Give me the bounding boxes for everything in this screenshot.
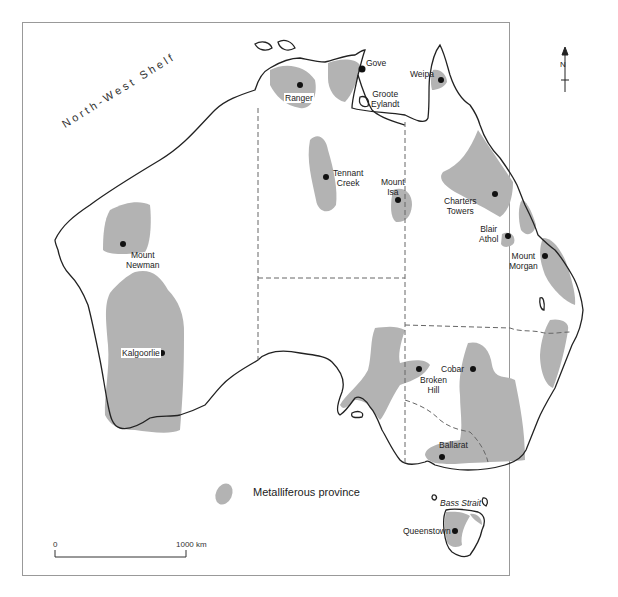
island-bathurst <box>278 40 295 50</box>
dot-mountmorgan <box>542 253 548 259</box>
legend-label: Metalliferous province <box>253 486 360 498</box>
label-broken-hill: BrokenHill <box>420 375 447 395</box>
dot-weipa <box>438 77 444 83</box>
province-brokenhill <box>340 327 430 420</box>
north-label: N <box>560 60 566 70</box>
label-ranger: Ranger <box>284 93 314 103</box>
province-strip1 <box>519 200 536 234</box>
label-weipa: Weipa <box>410 69 434 79</box>
label-gove: Gove <box>366 58 386 68</box>
label-tennant-creek: TennantCreek <box>333 168 363 188</box>
label-charters-towers: ChartersTowers <box>444 196 477 216</box>
dot-brokenhill <box>416 366 422 372</box>
island-kangaroo <box>352 412 363 418</box>
province-tasmania-ne <box>470 514 482 525</box>
province-mountnewman <box>103 202 151 254</box>
label-mount-isa: MountIsa <box>381 177 405 197</box>
dot-mountisa <box>395 197 401 203</box>
province-gove <box>328 59 360 102</box>
label-cobar: Cobar <box>441 364 464 374</box>
dot-cobar <box>470 366 476 372</box>
province-group <box>103 59 575 547</box>
dot-ballarat <box>439 454 445 460</box>
dot-queenstown <box>452 528 458 534</box>
island-melville <box>255 42 272 50</box>
label-queenstown: Queenstown <box>403 526 451 536</box>
map-canvas <box>0 0 618 597</box>
dot-tennant <box>323 174 329 180</box>
island-king <box>432 495 437 500</box>
label-mount-newman: MountNewman <box>126 250 160 270</box>
dot-charters <box>492 191 498 197</box>
scale-bar <box>55 550 186 557</box>
label-mount-morgan: MountMorgan <box>509 251 538 271</box>
dot-ranger <box>297 82 303 88</box>
island-flinders <box>482 498 487 506</box>
label-ballarat: Ballarat <box>439 440 468 450</box>
scale-end: 1000 km <box>176 540 207 549</box>
legend-swatch-icon <box>212 481 236 508</box>
label-groote-eylandt: GrooteEylandt <box>371 89 399 109</box>
label-kalgoorlie: Kalgoorlie <box>121 348 161 358</box>
label-blair-athol: BlairAthol <box>479 224 498 244</box>
dot-blairathol <box>505 233 511 239</box>
scale-start: 0 <box>53 540 57 549</box>
dot-gove <box>359 66 366 73</box>
label-bass-strait: Bass Strait <box>440 498 481 508</box>
island-fraser <box>540 298 545 310</box>
province-nsw-coast <box>540 319 568 388</box>
dot-mountnewman <box>120 241 126 247</box>
state-borders <box>258 108 570 465</box>
